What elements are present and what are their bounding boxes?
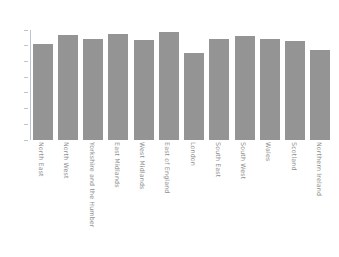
bar — [134, 40, 154, 140]
bar-column — [108, 30, 128, 140]
bar-column — [209, 30, 229, 140]
y-axis-tick-mark — [24, 77, 28, 78]
bar-column — [159, 30, 179, 140]
bar — [159, 32, 179, 140]
y-axis-tick-mark — [24, 92, 28, 93]
bar — [108, 34, 128, 140]
bar — [184, 53, 204, 140]
x-axis-label: East of England — [164, 142, 171, 193]
bar-column — [235, 30, 255, 140]
x-axis-label: London — [190, 142, 197, 166]
plot-area — [30, 30, 333, 140]
x-axis-label: South West — [240, 142, 247, 179]
y-axis-tick-mark — [24, 124, 28, 125]
x-axis-label: Yorkshire and the Humber — [89, 142, 96, 228]
bar — [260, 39, 280, 140]
bar-column — [83, 30, 103, 140]
x-axis-label: Northern Ireland — [316, 142, 323, 196]
bar-column — [134, 30, 154, 140]
bar-column — [285, 30, 305, 140]
bar-column — [260, 30, 280, 140]
bar-column — [33, 30, 53, 140]
y-axis-tick-mark — [24, 61, 28, 62]
bar-column — [58, 30, 78, 140]
bar-column — [184, 30, 204, 140]
bar — [285, 41, 305, 140]
bar-chart: 010203040506070 North EastNorth WestYork… — [0, 0, 339, 257]
x-axis-label: North West — [63, 142, 70, 179]
bar — [33, 44, 53, 140]
x-axis-label: East Midlands — [114, 142, 121, 188]
bar-column — [310, 30, 330, 140]
bar — [83, 39, 103, 140]
bar — [209, 39, 229, 140]
y-axis-tick-mark — [24, 108, 28, 109]
bars-layer — [30, 30, 333, 140]
x-axis-label: Wales — [265, 142, 272, 161]
x-axis-labels: North EastNorth WestYorkshire and the Hu… — [30, 142, 333, 254]
x-axis-label: Scotland — [291, 142, 298, 171]
x-axis-label: West Midlands — [139, 142, 146, 190]
x-axis-label: North East — [38, 142, 45, 177]
bar — [235, 36, 255, 140]
bar — [310, 50, 330, 140]
y-axis-tick-mark — [24, 140, 28, 141]
x-axis-label: South East — [215, 142, 222, 177]
y-axis-tick-mark — [24, 45, 28, 46]
y-axis-tick-mark — [24, 30, 28, 31]
bar — [58, 35, 78, 140]
